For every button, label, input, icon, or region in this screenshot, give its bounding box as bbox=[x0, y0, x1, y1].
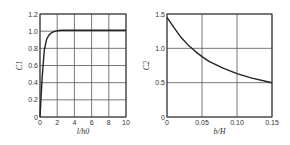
x-tick-label: 0.05 bbox=[195, 119, 209, 126]
y-axis-label: C1 bbox=[15, 61, 24, 70]
x-tick-label: 0 bbox=[165, 119, 169, 126]
chart-figure: 024681000.20.40.60.81.01.2l/h0C100.050.1… bbox=[0, 0, 290, 145]
chart-c1: 024681000.20.40.60.81.01.2l/h0C1 bbox=[15, 11, 130, 137]
y-tick-label: 1.5 bbox=[155, 11, 165, 18]
x-tick-label: 8 bbox=[107, 119, 111, 126]
y-tick-label: 0.2 bbox=[28, 96, 38, 103]
x-axis-label: b/H bbox=[214, 127, 227, 136]
y-tick-label: 0.6 bbox=[28, 62, 38, 69]
y-tick-label: 0.5 bbox=[155, 79, 165, 86]
x-axis-label: l/h0 bbox=[77, 127, 89, 136]
x-tick-label: 4 bbox=[72, 119, 76, 126]
y-axis-label: C2 bbox=[142, 61, 151, 70]
y-tick-label: 1.0 bbox=[155, 45, 165, 52]
x-tick-label: 0.10 bbox=[230, 119, 244, 126]
y-tick-label: 0 bbox=[161, 114, 165, 121]
x-tick-label: 0.15 bbox=[265, 119, 279, 126]
y-tick-label: 0.4 bbox=[28, 79, 38, 86]
x-tick-label: 2 bbox=[55, 119, 59, 126]
y-tick-label: 1.2 bbox=[28, 11, 38, 18]
series-line-c2 bbox=[167, 17, 272, 82]
y-tick-label: 0 bbox=[34, 114, 38, 121]
x-tick-label: 0 bbox=[38, 119, 42, 126]
x-tick-label: 10 bbox=[122, 119, 130, 126]
series-line-c1 bbox=[40, 30, 126, 117]
y-tick-label: 0.8 bbox=[28, 45, 38, 52]
x-tick-label: 6 bbox=[90, 119, 94, 126]
plot-frame bbox=[167, 14, 272, 117]
chart-c2: 00.050.100.1500.51.01.5b/HC2 bbox=[142, 11, 279, 137]
y-tick-label: 1.0 bbox=[28, 28, 38, 35]
